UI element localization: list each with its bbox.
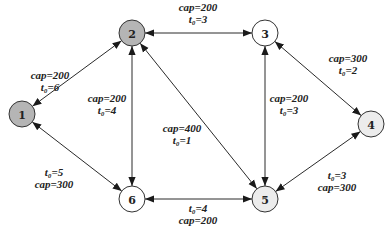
node-label: 3 [261, 28, 269, 41]
edge-label-line: t₀=4 [98, 104, 117, 116]
edge-label-line: t₀=1 [173, 134, 192, 146]
edge-label-line: cap=300 [318, 181, 357, 193]
edge-label-2-3: cap=200t₀=3 [179, 1, 218, 25]
edge-label-line: cap=300 [35, 178, 74, 190]
edge-label-line: t₀=2 [339, 64, 358, 76]
node-label: 2 [128, 28, 136, 41]
edge-label-line: t₀=3 [280, 104, 299, 116]
edge-label-line: cap=200 [179, 214, 218, 226]
edge-label-line: cap=200 [179, 1, 218, 13]
edge-label-line: cap=200 [31, 69, 70, 81]
node-label: 6 [128, 194, 136, 207]
edge-label-line: cap=300 [329, 52, 368, 64]
edge-label-4-5: t₀=3cap=300 [318, 169, 357, 193]
node-6: 6 [119, 186, 145, 212]
network-diagram: cap=200t₀=6cap=200t₀=3cap=200t₀=4cap=400… [0, 0, 391, 234]
node-1: 1 [9, 101, 35, 127]
edge-label-6-5: t₀=4cap=200 [179, 202, 218, 226]
edge-label-line: cap=200 [270, 92, 309, 104]
node-label: 5 [261, 194, 269, 207]
edge-label-line: t₀=4 [189, 202, 208, 214]
edge-label-2-5: cap=400t₀=1 [163, 122, 202, 146]
node-5: 5 [252, 186, 278, 212]
edge-2-5 [140, 43, 257, 189]
node-3: 3 [252, 20, 278, 46]
node-label: 1 [18, 109, 26, 122]
edge-label-line: t₀=3 [328, 169, 347, 181]
edge-label-1-2: cap=200t₀=6 [31, 69, 70, 93]
edge-label-3-5: cap=200t₀=3 [270, 92, 309, 116]
edge-label-2-6: cap=200t₀=4 [88, 92, 127, 116]
node-2: 2 [119, 20, 145, 46]
edge-label-3-4: cap=300t₀=2 [329, 52, 368, 76]
edge-label-1-6: t₀=5cap=300 [35, 166, 74, 190]
node-4: 4 [358, 111, 384, 137]
edge-label-line: t₀=6 [41, 81, 60, 93]
edge-label-line: cap=200 [88, 92, 127, 104]
edge-label-line: t₀=3 [189, 13, 208, 25]
node-label: 4 [367, 119, 375, 132]
edge-label-line: t₀=5 [45, 166, 64, 178]
edge-label-line: cap=400 [163, 122, 202, 134]
